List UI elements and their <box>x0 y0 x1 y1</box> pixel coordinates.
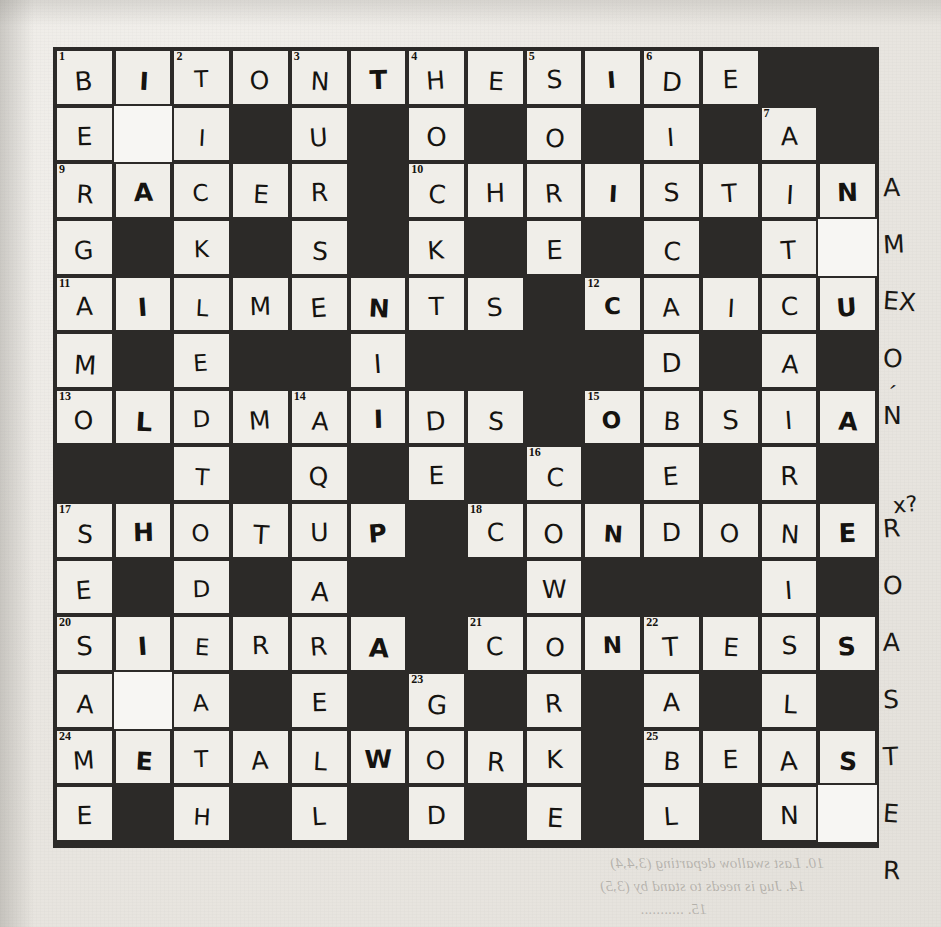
crossword-cell-r2c11[interactable]: I <box>642 106 701 163</box>
crossword-cell-r1c1[interactable]: 1B <box>55 49 114 106</box>
crossword-cell-r8c13[interactable]: R <box>760 445 819 502</box>
crossword-cell-r8c9[interactable]: 16C <box>525 445 584 502</box>
crossword-cell-r5c7[interactable]: T <box>407 276 466 333</box>
crossword-cell-r2c1[interactable]: E <box>55 106 114 163</box>
crossword-cell-r3c11[interactable]: S <box>642 162 701 219</box>
crossword-cell-r5c6[interactable]: N <box>349 276 408 333</box>
crossword-cell-r4c13[interactable]: T <box>760 219 819 276</box>
crossword-cell-r1c6[interactable]: T <box>349 49 408 106</box>
crossword-cell-r1c11[interactable]: 6D <box>642 49 701 106</box>
crossword-cell-r7c10[interactable]: 15O <box>583 389 642 446</box>
crossword-cell-r5c1[interactable]: 11A <box>55 276 114 333</box>
crossword-cell-r11c13[interactable]: S <box>760 615 819 672</box>
crossword-cell-r3c13[interactable]: I <box>760 162 819 219</box>
crossword-cell-r5c3[interactable]: L <box>172 276 231 333</box>
crossword-cell-r8c5[interactable]: Q <box>290 445 349 502</box>
crossword-cell-r13c7[interactable]: O <box>407 729 466 786</box>
crossword-cell-r9c10[interactable]: N <box>583 502 642 559</box>
crossword-cell-r13c2[interactable]: E <box>114 729 173 786</box>
crossword-cell-r11c1[interactable]: 20S <box>55 615 114 672</box>
crossword-cell-r9c4[interactable]: T <box>231 502 290 559</box>
crossword-cell-r15c7[interactable]: D <box>407 842 466 846</box>
crossword-cell-r15c4[interactable]: 26G <box>231 842 290 846</box>
crossword-cell-r3c5[interactable]: R <box>290 162 349 219</box>
crossword-cell-r1c5[interactable]: 3N <box>290 49 349 106</box>
crossword-cell-r10c9[interactable]: W <box>525 559 584 616</box>
crossword-cell-r13c12[interactable]: E <box>701 729 760 786</box>
crossword-cell-r13c3[interactable]: T <box>172 729 231 786</box>
crossword-cell-r4c11[interactable]: C <box>642 219 701 276</box>
crossword-cell-r11c11[interactable]: 22T <box>642 615 701 672</box>
crossword-cell-r5c11[interactable]: A <box>642 276 701 333</box>
crossword-cell-r4c3[interactable]: K <box>172 219 231 276</box>
crossword-cell-r13c8[interactable]: R <box>466 729 525 786</box>
crossword-cell-r13c4[interactable]: A <box>231 729 290 786</box>
crossword-cell-r6c1[interactable]: M <box>55 332 114 389</box>
crossword-cell-r9c9[interactable]: O <box>525 502 584 559</box>
crossword-cell-r5c12[interactable]: I <box>701 276 760 333</box>
crossword-cell-r15c12[interactable]: N <box>701 842 760 846</box>
crossword-cell-r6c6[interactable]: I <box>349 332 408 389</box>
crossword-cell-r8c3[interactable]: T <box>172 445 231 502</box>
crossword-cell-r3c14[interactable]: N <box>818 162 877 219</box>
crossword-cell-r11c8[interactable]: 21C <box>466 615 525 672</box>
crossword-cell-r13c13[interactable]: A <box>760 729 819 786</box>
crossword-cell-r9c11[interactable]: D <box>642 502 701 559</box>
crossword-cell-r14c9[interactable]: E <box>525 785 584 842</box>
crossword-cell-r9c2[interactable]: H <box>114 502 173 559</box>
crossword-cell-r1c3[interactable]: 2T <box>172 49 231 106</box>
crossword-cell-r13c5[interactable]: L <box>290 729 349 786</box>
crossword-cell-r2c7[interactable]: O <box>407 106 466 163</box>
crossword-cell-r7c7[interactable]: D <box>407 389 466 446</box>
crossword-grid[interactable]: 1BI2TO3NT4HE5SI6DEEIUOOI7A9RACER10CHRIST… <box>55 49 877 846</box>
crossword-cell-r7c8[interactable]: S <box>466 389 525 446</box>
crossword-cell-r15c5[interactable]: E <box>290 842 349 846</box>
crossword-cell-r7c5[interactable]: 14A <box>290 389 349 446</box>
crossword-cell-r13c11[interactable]: 25B <box>642 729 701 786</box>
crossword-cell-r1c10[interactable]: I <box>583 49 642 106</box>
crossword-cell-r3c7[interactable]: 10C <box>407 162 466 219</box>
crossword-cell-r15c9[interactable]: R <box>525 842 584 846</box>
crossword-cell-r11c12[interactable]: E <box>701 615 760 672</box>
crossword-cell-r5c13[interactable]: C <box>760 276 819 333</box>
crossword-cell-r2c3[interactable]: I <box>172 106 231 163</box>
crossword-cell-r9c6[interactable]: P <box>349 502 408 559</box>
crossword-cell-r12c1[interactable]: A <box>55 672 114 729</box>
crossword-cell-r13c9[interactable]: K <box>525 729 584 786</box>
crossword-cell-r1c2[interactable]: I <box>114 49 173 106</box>
crossword-cell-r7c11[interactable]: B <box>642 389 701 446</box>
crossword-cell-r12c7[interactable]: 23G <box>407 672 466 729</box>
crossword-cell-r12c3[interactable]: A <box>172 672 231 729</box>
crossword-cell-r4c1[interactable]: G <box>55 219 114 276</box>
crossword-cell-r5c8[interactable]: S <box>466 276 525 333</box>
crossword-cell-r2c5[interactable]: U <box>290 106 349 163</box>
crossword-cell-r14c11[interactable]: L <box>642 785 701 842</box>
crossword-cell-r15c14[interactable]: E <box>818 842 877 846</box>
crossword-cell-r11c10[interactable]: N <box>583 615 642 672</box>
crossword-cell-r11c14[interactable]: S <box>818 615 877 672</box>
crossword-cell-r14c13[interactable]: N <box>760 785 819 842</box>
crossword-cell-r14c1[interactable]: E <box>55 785 114 842</box>
crossword-cell-r12c13[interactable]: L <box>760 672 819 729</box>
crossword-cell-r5c10[interactable]: 12C <box>583 276 642 333</box>
crossword-cell-r10c5[interactable]: A <box>290 559 349 616</box>
crossword-cell-r14c3[interactable]: H <box>172 785 231 842</box>
crossword-cell-r3c10[interactable]: I <box>583 162 642 219</box>
crossword-cell-r7c1[interactable]: 13O <box>55 389 114 446</box>
crossword-cell-r5c14[interactable]: U <box>818 276 877 333</box>
crossword-cell-r1c8[interactable]: E <box>466 49 525 106</box>
crossword-cell-r7c13[interactable]: I <box>760 389 819 446</box>
crossword-cell-r9c3[interactable]: O <box>172 502 231 559</box>
crossword-cell-r11c4[interactable]: R <box>231 615 290 672</box>
crossword-cell-r2c13[interactable]: 7A <box>760 106 819 163</box>
crossword-cell-r2c9[interactable]: O <box>525 106 584 163</box>
crossword-cell-r3c9[interactable]: R <box>525 162 584 219</box>
crossword-cell-r8c7[interactable]: E <box>407 445 466 502</box>
crossword-cell-r9c14[interactable]: E <box>818 502 877 559</box>
crossword-cell-r7c14[interactable]: A <box>818 389 877 446</box>
crossword-cell-r11c3[interactable]: E <box>172 615 231 672</box>
crossword-cell-r5c5[interactable]: E <box>290 276 349 333</box>
crossword-cell-r9c12[interactable]: O <box>701 502 760 559</box>
crossword-cell-r13c1[interactable]: 24M <box>55 729 114 786</box>
crossword-cell-r11c5[interactable]: R <box>290 615 349 672</box>
